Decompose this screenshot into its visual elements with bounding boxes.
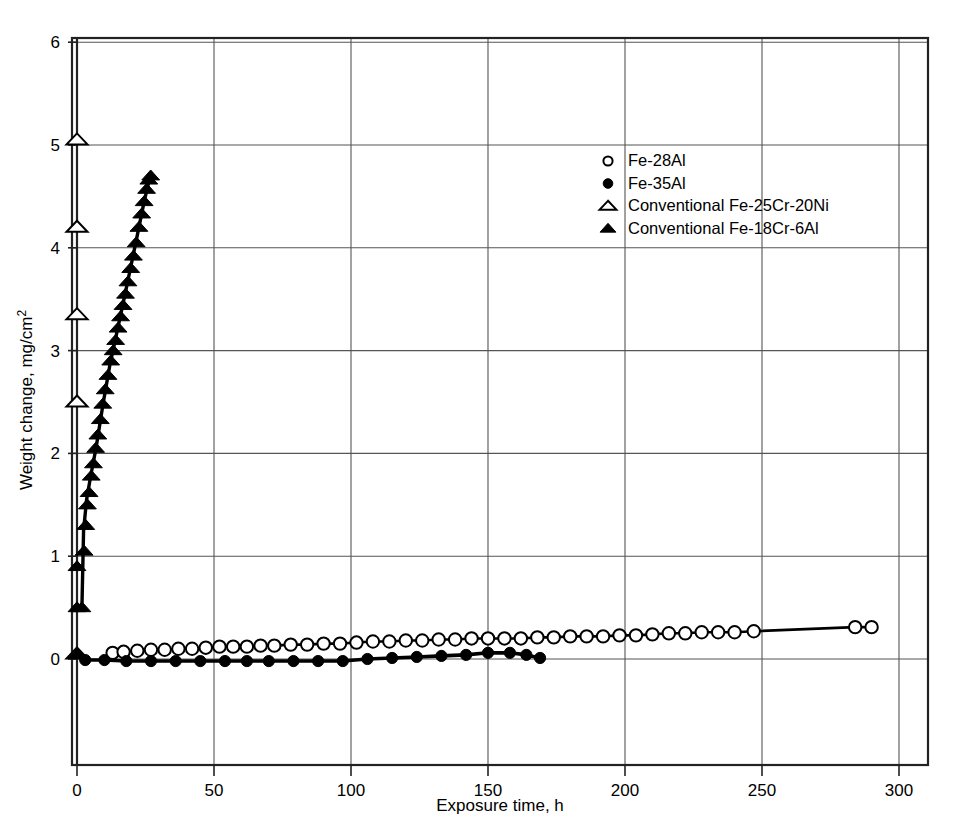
chart-figure: 050100150200250300 0123456 Exposure time…	[0, 0, 958, 832]
data-point-open-circle	[663, 627, 675, 639]
legend-marker-filled-circle-icon	[603, 179, 613, 189]
data-point-filled-circle	[460, 649, 471, 660]
y-tick-label: 1	[51, 547, 60, 566]
data-point-open-circle	[172, 643, 184, 655]
data-point-filled-circle	[362, 653, 373, 664]
data-point-open-circle	[158, 644, 170, 656]
data-point-open-circle	[498, 632, 510, 644]
data-point-open-circle	[679, 627, 691, 639]
data-point-open-circle	[301, 638, 313, 650]
data-point-open-circle	[630, 629, 642, 641]
data-point-filled-circle	[337, 655, 348, 666]
data-point-open-circle	[865, 621, 877, 633]
legend-label: Fe-28Al	[628, 151, 686, 169]
legend-label: Fe-35Al	[628, 174, 686, 192]
data-point-open-circle	[597, 630, 609, 642]
data-point-open-circle	[367, 635, 379, 647]
data-point-open-circle	[285, 638, 297, 650]
data-point-open-circle	[548, 631, 560, 643]
x-tick-label: 200	[611, 781, 639, 800]
data-point-open-circle	[213, 640, 225, 652]
data-point-filled-circle	[436, 650, 447, 661]
data-point-filled-circle	[195, 655, 206, 666]
data-point-filled-circle	[121, 655, 132, 666]
legend-item-2: Conventional Fe-25Cr-20Ni	[600, 196, 829, 214]
data-point-open-circle	[564, 630, 576, 642]
y-tick-label: 0	[51, 650, 60, 669]
data-point-filled-circle	[504, 647, 515, 658]
x-tick-label: 0	[72, 781, 81, 800]
data-point-open-circle	[432, 633, 444, 645]
data-point-filled-circle	[387, 652, 398, 663]
data-point-open-circle	[334, 637, 346, 649]
data-point-filled-circle	[99, 654, 110, 665]
y-tick-label: 2	[51, 444, 60, 463]
data-point-filled-circle	[411, 651, 422, 662]
data-point-open-circle	[416, 634, 428, 646]
legend-label: Conventional Fe-25Cr-20Ni	[628, 196, 829, 214]
data-point-open-circle	[531, 631, 543, 643]
data-point-open-circle	[580, 630, 592, 642]
data-point-open-circle	[145, 644, 157, 656]
y-axis-label: Weight change, mg/cm2	[15, 310, 36, 491]
data-point-open-circle	[200, 641, 212, 653]
data-point-open-circle	[268, 639, 280, 651]
data-point-open-circle	[748, 625, 760, 637]
data-point-open-circle	[400, 634, 412, 646]
data-point-open-circle	[515, 632, 527, 644]
data-point-filled-circle	[241, 655, 252, 666]
x-tick-label: 50	[205, 781, 224, 800]
data-point-open-circle	[241, 640, 253, 652]
data-point-open-circle	[317, 637, 329, 649]
data-point-filled-circle	[219, 655, 230, 666]
data-point-open-circle	[728, 626, 740, 638]
y-tick-label: 5	[51, 136, 60, 155]
x-axis-label: Exposure time, h	[436, 796, 564, 815]
data-point-open-circle	[646, 628, 658, 640]
chart-background	[0, 0, 958, 832]
legend-label: Conventional Fe-18Cr-6Al	[628, 219, 819, 237]
weight-change-vs-exposure-time-chart: 050100150200250300 0123456 Exposure time…	[0, 0, 958, 832]
data-point-open-circle	[603, 156, 612, 165]
x-tick-label: 300	[885, 781, 913, 800]
legend-item-3: Conventional Fe-18Cr-6Al	[600, 219, 819, 237]
x-tick-label: 100	[337, 781, 365, 800]
data-point-open-circle	[613, 629, 625, 641]
data-point-open-circle	[254, 639, 266, 651]
data-point-open-circle	[696, 626, 708, 638]
data-point-filled-circle	[534, 652, 545, 663]
y-tick-label: 3	[51, 342, 60, 361]
data-point-filled-circle	[263, 655, 274, 666]
data-point-open-circle	[712, 626, 724, 638]
data-point-open-circle	[849, 621, 861, 633]
data-point-open-circle	[186, 643, 198, 655]
data-point-open-circle	[449, 633, 461, 645]
data-point-filled-circle	[482, 647, 493, 658]
data-point-filled-circle	[170, 655, 181, 666]
data-point-filled-circle	[288, 655, 299, 666]
x-tick-label: 250	[748, 781, 776, 800]
data-point-filled-circle	[145, 655, 156, 666]
y-tick-label: 6	[51, 33, 60, 52]
data-point-open-circle	[482, 632, 494, 644]
y-tick-label: 4	[51, 239, 60, 258]
data-point-open-circle	[227, 640, 239, 652]
data-point-open-circle	[350, 636, 362, 648]
legend-marker-open-circle-icon	[603, 156, 612, 165]
data-point-open-circle	[465, 632, 477, 644]
data-point-filled-circle	[603, 179, 613, 189]
data-point-open-circle	[131, 645, 143, 657]
data-point-open-circle	[383, 635, 395, 647]
data-point-filled-circle	[313, 655, 324, 666]
data-point-filled-circle	[521, 649, 532, 660]
